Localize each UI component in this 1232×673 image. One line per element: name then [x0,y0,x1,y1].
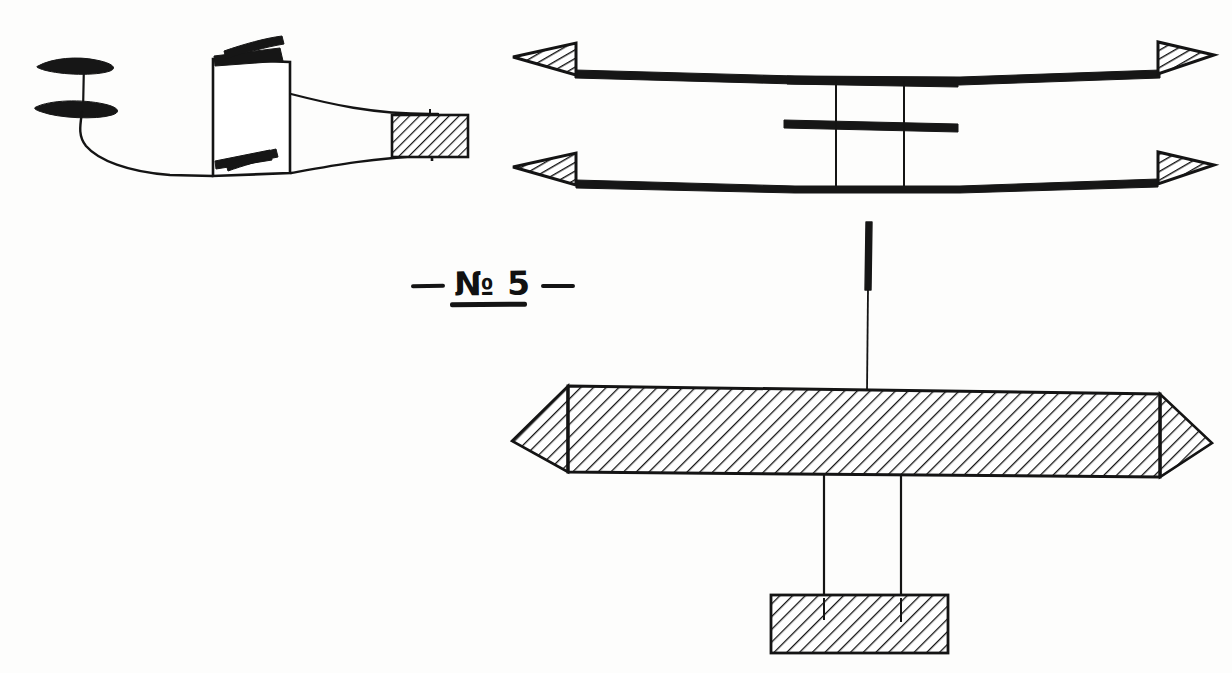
cross-member-lower [784,120,958,132]
propeller-blade-lower [35,101,118,118]
tail-boom-lower [291,156,436,173]
fuselage-side-view [35,36,468,176]
plate-label-dash-right [541,284,575,288]
nose-curve [80,112,213,176]
tail-boom-upper [291,94,438,114]
drawing-sheet: № 5 [0,0,1232,673]
plate-number-text: № 5 [454,266,532,300]
beam-end-left [512,386,568,472]
main-beam [568,386,1160,477]
propeller-blade-upper [37,58,114,74]
wing-tip-upper-left [513,43,576,75]
base-block [771,595,948,653]
main-beam-assembly [512,222,1212,653]
biplane-wing-plan-view [513,42,1214,193]
mast-stub [865,222,872,290]
wing-tip-lower-right [1158,152,1214,184]
tail-block [392,115,468,157]
plate-label-dash-left [411,284,445,288]
lower-spar [576,179,1158,193]
beam-end-right [1160,394,1212,477]
plate-label-numero-wrap: № 5 [452,267,533,304]
wing-tip-lower-left [513,153,576,185]
wing-tip-upper-right [1158,42,1214,74]
plate-label-underline [450,301,527,307]
plate-label: № 5 [398,262,588,308]
mast-line [867,289,868,392]
technical-drawing-canvas [0,0,1232,673]
